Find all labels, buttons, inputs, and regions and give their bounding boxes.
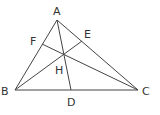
label-a: A: [53, 5, 61, 18]
altitude-be: [15, 41, 82, 90]
side-ab: [15, 20, 57, 90]
triangle-diagram: A B C D E F H: [0, 0, 160, 115]
label-h: H: [55, 64, 63, 77]
label-b: B: [1, 85, 9, 98]
label-f: F: [30, 35, 36, 48]
label-c: C: [142, 85, 150, 98]
label-d: D: [67, 96, 75, 109]
label-e: E: [84, 28, 91, 41]
